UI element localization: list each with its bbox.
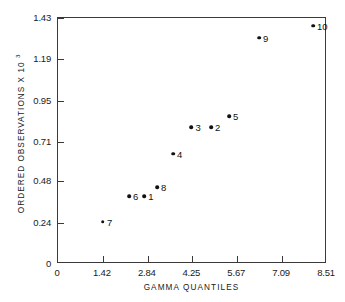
data-point-label: 4 [177, 148, 182, 159]
x-axis-tick-label: 1.42 [93, 267, 111, 278]
x-axis-tick [282, 256, 283, 262]
x-axis-tick-label: 0 [54, 267, 59, 278]
x-axis-tick-label: 7.09 [272, 267, 290, 278]
x-axis-tick [192, 256, 193, 262]
data-point-label: 5 [233, 111, 238, 122]
data-point [101, 220, 105, 224]
data-point [142, 194, 146, 198]
x-axis-tick [148, 256, 149, 262]
data-point-label: 8 [161, 182, 166, 193]
x-axis-tick-label: 5.67 [227, 267, 245, 278]
data-point [209, 125, 213, 129]
x-axis-tick-label: 4.25 [182, 267, 200, 278]
data-point-label: 9 [263, 32, 268, 43]
data-point-label: 6 [133, 191, 138, 202]
x-axis-tick-labels: 01.422.844.255.677.098.51 [0, 267, 345, 283]
y-axis-tick [58, 18, 64, 19]
data-point [171, 152, 175, 156]
y-axis-tick [58, 142, 64, 143]
x-axis-title: GAMMA QUANTILES [57, 283, 326, 292]
x-axis-tick-label: 8.51 [317, 267, 335, 278]
data-point [155, 186, 159, 190]
data-point [257, 36, 261, 40]
x-axis-tick-label: 2.84 [138, 267, 156, 278]
data-point [227, 114, 231, 118]
y-axis-tick [58, 223, 64, 224]
x-axis-tick [103, 256, 104, 262]
data-point-label: 2 [215, 122, 220, 133]
data-point [190, 125, 194, 129]
data-point-label: 1 [148, 191, 153, 202]
gamma-quantile-scatter-figure: 12345678910 00.240.480.710.951.191.43 01… [0, 0, 345, 302]
data-point [127, 194, 131, 198]
data-point [311, 24, 315, 28]
y-axis-exponent: 3 [14, 55, 21, 58]
y-axis-tick [58, 59, 64, 60]
plot-area: 12345678910 [57, 17, 326, 263]
data-point-label: 3 [195, 122, 200, 133]
y-axis-tick [58, 181, 64, 182]
y-axis-title: ORDERED OBSERVATIONS X 10 3 [14, 9, 26, 259]
data-point-label: 7 [107, 216, 112, 227]
data-point-label: 10 [317, 20, 327, 31]
y-axis-tick [58, 101, 64, 102]
x-axis-tick [237, 256, 238, 262]
